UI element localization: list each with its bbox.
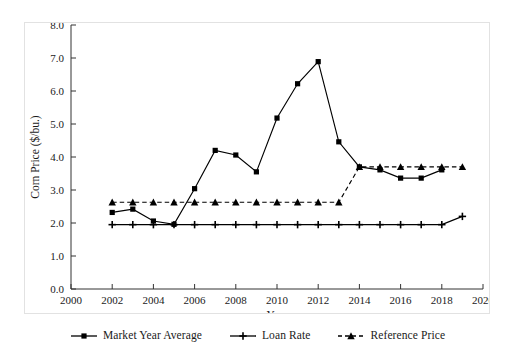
x-tick-label: 2018	[431, 294, 454, 306]
x-axis-title: Year	[266, 309, 287, 313]
legend-marker-square-icon	[69, 330, 99, 342]
axis-lines	[71, 25, 483, 289]
legend-marker-triangle-icon	[336, 330, 366, 342]
legend-item-loan-rate[interactable]: Loan Rate	[228, 330, 310, 342]
legend-label: Reference Price	[370, 330, 445, 342]
corn-price-line-chart: 0.01.02.03.04.05.06.07.08.0 200020022004…	[25, 23, 489, 313]
chart-legend: Market Year AverageLoan RateReference Pr…	[24, 330, 490, 342]
legend-item-market-year-average[interactable]: Market Year Average	[69, 330, 202, 342]
x-tick-label: 2000	[60, 294, 83, 306]
legend-item-reference-price[interactable]: Reference Price	[336, 330, 445, 342]
legend-label: Market Year Average	[103, 330, 202, 342]
chart-frame: 0.01.02.03.04.05.06.07.08.0 200020022004…	[24, 22, 490, 314]
legend-marker-plus-icon	[228, 330, 258, 342]
y-tick-label: 4.0	[50, 151, 64, 163]
x-tick-label: 2016	[390, 294, 413, 306]
y-tick-label: 1.0	[50, 250, 64, 262]
x-axis-ticks: 2000200220042006200820102012201420162018…	[60, 284, 489, 306]
data-series-layer	[109, 59, 467, 228]
y-tick-label: 6.0	[50, 85, 64, 97]
x-tick-label: 2004	[142, 294, 165, 306]
x-tick-label: 2012	[307, 294, 329, 306]
x-tick-label: 2006	[184, 294, 207, 306]
y-tick-label: 3.0	[50, 184, 64, 196]
y-tick-label: 2.0	[50, 217, 64, 229]
series-loan-rate	[109, 213, 467, 229]
series-line	[112, 167, 462, 202]
x-tick-label: 2014	[348, 294, 371, 306]
y-axis-title: Corn Price ($/bu.)	[29, 115, 42, 199]
y-axis-ticks: 0.01.02.03.04.05.06.07.08.0	[50, 23, 76, 295]
x-tick-label: 2002	[101, 294, 123, 306]
x-tick-label: 2020	[472, 294, 489, 306]
y-tick-label: 5.0	[50, 118, 64, 130]
series-reference-price	[109, 163, 467, 205]
x-tick-label: 2010	[266, 294, 289, 306]
y-tick-label: 7.0	[50, 52, 64, 64]
x-tick-label: 2008	[225, 294, 248, 306]
legend-label: Loan Rate	[262, 330, 310, 342]
y-tick-label: 8.0	[50, 23, 64, 31]
